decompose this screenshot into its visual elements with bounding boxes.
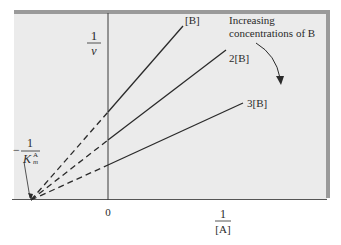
line-2b-label: 2[B] xyxy=(229,52,249,64)
km-subscript: m xyxy=(33,158,38,166)
annotation-line-1: Increasing xyxy=(229,14,275,26)
line-3b-label: 3[B] xyxy=(247,97,267,109)
x-label-numerator: 1 xyxy=(220,207,226,221)
lineweaver-burk-chart: 1 v − 1 K A m 0 1 [A] [B] 2[B] 3[B] Incr… xyxy=(0,0,341,245)
km-numerator: 1 xyxy=(27,136,33,150)
km-sign: − xyxy=(13,143,20,157)
y-label-denominator: v xyxy=(91,44,97,58)
x-label-denominator: [A] xyxy=(215,223,230,235)
km-denominator: K xyxy=(22,152,32,166)
frame-top-band xyxy=(14,10,330,14)
x-tick-zero: 0 xyxy=(105,206,111,218)
y-label-numerator: 1 xyxy=(91,28,98,43)
frame-right-band xyxy=(326,10,330,198)
line-b-label: [B] xyxy=(185,14,200,26)
annotation-line-2: concentrations of B xyxy=(229,27,315,39)
